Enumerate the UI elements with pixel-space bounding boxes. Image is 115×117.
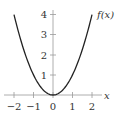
x-axis-label: x <box>104 90 110 101</box>
x-tick-label: −2 <box>7 101 22 112</box>
x-tick-label: 2 <box>89 101 95 112</box>
y-axis-label: f(x) <box>96 9 114 20</box>
x-tick-label: −1 <box>26 101 41 112</box>
y-tick-label: 3 <box>41 29 47 40</box>
x-tick-label: 0 <box>50 101 56 112</box>
y-tick-label: 2 <box>41 50 47 61</box>
parabola-plot: −2 −1 0 1 2 1 2 3 4 x f(x) <box>0 0 115 117</box>
y-tick-label: 1 <box>41 70 47 81</box>
y-tick-label: 4 <box>41 9 47 20</box>
x-tick-label: 1 <box>69 101 75 112</box>
